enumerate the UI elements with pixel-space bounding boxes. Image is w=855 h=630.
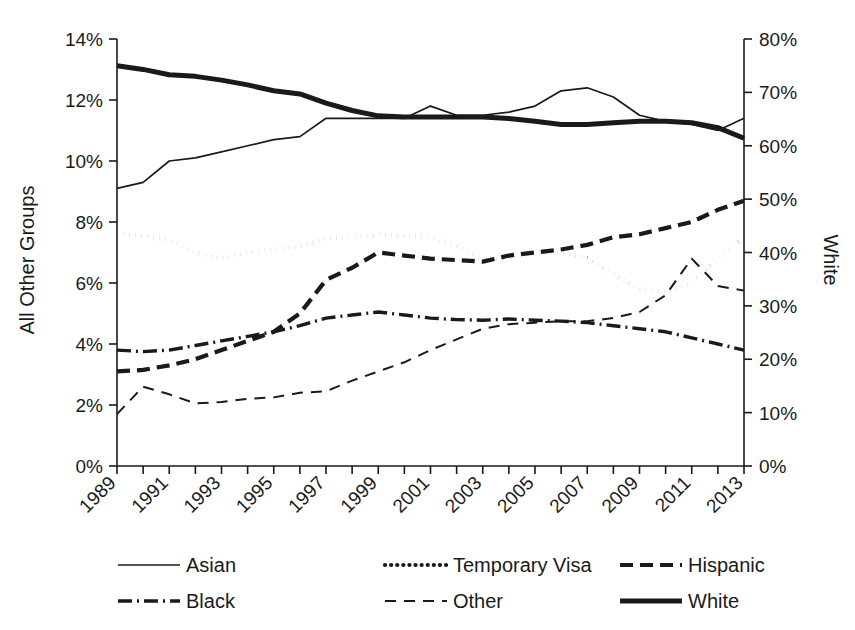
y-axis-left-tick-label: 10%	[65, 151, 103, 172]
y-axis-right-tick-label: 50%	[759, 189, 797, 210]
y-axis-left-tick-label: 6%	[76, 273, 104, 294]
legend-label: Black	[186, 590, 236, 612]
chart-container: 0%2%4%6%8%10%12%14% 0%10%20%30%40%50%60%…	[0, 0, 855, 630]
y-axis-right-tick-label: 10%	[759, 403, 797, 424]
legend-label: Hispanic	[688, 554, 765, 576]
y-axis-right-tick-label: 20%	[759, 349, 797, 370]
y-axis-right-tick-label: 80%	[759, 29, 797, 50]
y-axis-left-tick-label: 4%	[76, 334, 104, 355]
y-axis-right-tick-label: 30%	[759, 296, 797, 317]
y-axis-right-tick-label: 70%	[759, 82, 797, 103]
y-axis-left-tick-label: 12%	[65, 90, 103, 111]
y-axis-left-tick-label: 2%	[76, 395, 104, 416]
line-chart: 0%2%4%6%8%10%12%14% 0%10%20%30%40%50%60%…	[0, 0, 855, 630]
y-axis-left-tick-label: 8%	[76, 212, 104, 233]
y-axis-right-title: White	[820, 234, 842, 285]
y-axis-left-title: All Other Groups	[16, 186, 38, 335]
y-axis-right-tick-label: 60%	[759, 136, 797, 157]
y-axis-right-tick-label: 40%	[759, 243, 797, 264]
legend-label: Other	[453, 590, 503, 612]
legend-label: Asian	[186, 554, 236, 576]
chart-background	[0, 0, 855, 630]
y-axis-left-tick-label: 0%	[76, 456, 104, 477]
legend-label: White	[688, 590, 739, 612]
y-axis-left-tick-label: 14%	[65, 29, 103, 50]
legend-label: Temporary Visa	[453, 554, 592, 576]
y-axis-right-tick-label: 0%	[759, 456, 787, 477]
